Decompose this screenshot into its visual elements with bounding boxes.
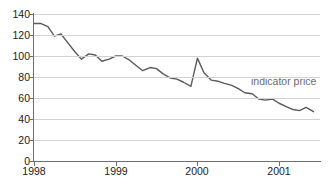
- x-axis-tick-label: 1998: [22, 166, 45, 177]
- gridline: [34, 14, 320, 15]
- gridline: [34, 98, 320, 99]
- y-axis-tick: [30, 140, 34, 141]
- x-axis-tick-label: 2001: [267, 166, 290, 177]
- y-axis-tick: [30, 14, 34, 15]
- y-axis-tick: [30, 119, 34, 120]
- gridline: [34, 119, 320, 120]
- gridline: [34, 35, 320, 36]
- y-axis-tick: [30, 98, 34, 99]
- series-layer: [0, 0, 332, 189]
- gridline: [34, 77, 320, 78]
- gridline: [34, 56, 320, 57]
- y-axis-tick: [30, 35, 34, 36]
- gridline: [34, 140, 320, 141]
- x-axis-tick-label: 2000: [185, 166, 208, 177]
- line-chart: 020406080100120140 indicator price 19981…: [0, 0, 332, 189]
- x-axis-tick-label: 1999: [104, 166, 127, 177]
- y-axis-tick: [30, 77, 34, 78]
- y-axis-tick: [30, 56, 34, 57]
